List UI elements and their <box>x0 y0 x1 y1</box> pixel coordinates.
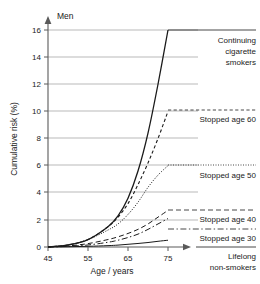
cumulative-risk-chart: 16 14 12 10 8 6 4 2 0 Cumulative risk (%… <box>0 0 260 284</box>
y-tick-label-8: 8 <box>37 134 42 143</box>
y-tick-label-2: 2 <box>37 216 42 225</box>
x-axis: 45 55 65 75 Age / years <box>44 244 191 276</box>
curve-stopped-age-60 <box>48 111 168 247</box>
y-axis-title: Cumulative risk (%) <box>9 102 19 176</box>
label-stopped-age-40: Stopped age 40 <box>200 215 257 224</box>
label-continuing-line1: Continuing <box>218 36 256 45</box>
series-curves <box>48 30 168 247</box>
y-tick-label-4: 4 <box>37 188 42 197</box>
gridlines <box>48 30 198 220</box>
y-tick-label-12: 12 <box>32 80 41 89</box>
label-stopped-age-60: Stopped age 60 <box>200 115 257 124</box>
curve-stopped-age-50 <box>48 166 168 247</box>
label-stopped-age-30: Stopped age 30 <box>200 234 257 243</box>
chart-figure: 16 14 12 10 8 6 4 2 0 Cumulative risk (%… <box>0 0 260 284</box>
label-lifelong-line2: non-smokers <box>210 263 256 272</box>
x-tick-label-45: 45 <box>44 254 53 263</box>
y-tick-label-16: 16 <box>32 26 41 35</box>
x-axis-title: Age / years <box>91 266 134 276</box>
x-axis-arrow-icon <box>183 244 191 251</box>
y-tick-label-0: 0 <box>37 243 42 252</box>
y-axis-arrow-icon <box>45 16 52 24</box>
panel-label-men: Men <box>57 11 74 21</box>
x-tick-label-65: 65 <box>124 254 133 263</box>
y-tick-label-6: 6 <box>37 161 42 170</box>
x-tick-label-55: 55 <box>84 254 93 263</box>
y-tick-label-10: 10 <box>32 107 41 116</box>
annotation-labels: Continuing cigarette smokers Stopped age… <box>200 36 257 272</box>
label-continuing-line3: smokers <box>226 58 256 67</box>
label-lifelong-line1: Lifelong <box>228 252 256 261</box>
curve-continuing-cigarette-smokers <box>48 30 168 247</box>
label-continuing-line2: cigarette <box>225 47 256 56</box>
y-axis: 16 14 12 10 8 6 4 2 0 Cumulative risk (%… <box>9 16 51 252</box>
label-stopped-age-50: Stopped age 50 <box>200 171 257 180</box>
x-tick-label-75: 75 <box>164 254 173 263</box>
y-tick-label-14: 14 <box>32 53 41 62</box>
